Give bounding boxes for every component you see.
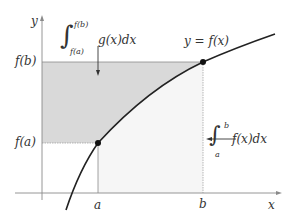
integral-sign-right: ∫ xyxy=(209,124,220,146)
right-integral-upper-limit: b xyxy=(224,122,229,130)
point-b-fb xyxy=(200,59,206,65)
x-axis-arrow-icon xyxy=(276,191,282,195)
y-axis-arrow-icon xyxy=(40,15,44,21)
tick-label-fa: f(a) xyxy=(15,136,36,148)
integral-sign-left: ∫ xyxy=(60,22,74,48)
right-integral-lower-limit: a xyxy=(215,151,220,159)
diagram-canvas xyxy=(0,0,294,218)
tick-label-b: b xyxy=(199,198,207,210)
tick-label-a: a xyxy=(94,199,101,211)
y-axis-label: y xyxy=(31,15,38,27)
integral-diagram: y x a b f(b) f(a) y = f(x) ∫ f(b) f(a) g… xyxy=(0,0,294,218)
left-integrand: g(x)dx xyxy=(98,34,136,46)
left-integral-lower-limit: f(a) xyxy=(70,48,84,56)
point-a-fa xyxy=(95,140,101,146)
right-integrand: f(x)dx xyxy=(232,133,267,145)
x-axis-label: x xyxy=(268,199,275,211)
left-integral-upper-limit: f(b) xyxy=(74,21,88,29)
curve-label: y = f(x) xyxy=(184,35,229,47)
tick-label-fb: f(b) xyxy=(15,55,37,67)
